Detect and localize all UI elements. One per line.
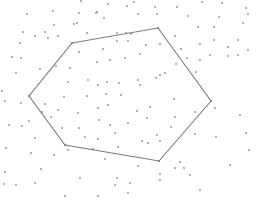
point bbox=[97, 107, 99, 109]
point bbox=[79, 177, 81, 179]
point bbox=[183, 167, 185, 169]
point bbox=[21, 125, 23, 127]
point bbox=[164, 72, 166, 74]
point bbox=[180, 48, 182, 50]
point bbox=[141, 140, 143, 142]
point bbox=[174, 116, 176, 118]
point bbox=[159, 140, 161, 142]
point bbox=[145, 44, 147, 46]
point bbox=[67, 81, 69, 83]
point bbox=[201, 1, 203, 3]
point bbox=[55, 65, 57, 67]
point bbox=[194, 111, 196, 113]
point bbox=[116, 40, 118, 42]
point bbox=[197, 26, 199, 28]
vertex bbox=[158, 160, 160, 162]
point bbox=[3, 183, 5, 185]
point bbox=[218, 16, 220, 18]
point bbox=[78, 51, 80, 53]
point bbox=[109, 59, 111, 61]
point bbox=[114, 132, 116, 134]
point bbox=[213, 26, 215, 28]
point bbox=[179, 161, 181, 163]
point bbox=[44, 103, 46, 105]
point bbox=[63, 96, 65, 98]
point bbox=[97, 138, 99, 140]
diagram-canvas bbox=[0, 0, 263, 215]
point bbox=[147, 142, 149, 144]
point bbox=[26, 13, 28, 15]
point bbox=[199, 189, 201, 191]
point bbox=[104, 158, 106, 160]
point bbox=[127, 192, 129, 194]
point bbox=[34, 35, 36, 37]
point bbox=[22, 31, 24, 33]
point bbox=[174, 35, 176, 37]
point bbox=[20, 102, 22, 104]
point bbox=[53, 154, 55, 156]
point bbox=[34, 182, 36, 184]
point bbox=[118, 82, 120, 84]
point bbox=[127, 40, 129, 42]
point bbox=[76, 22, 78, 24]
point bbox=[175, 63, 177, 65]
point bbox=[80, 0, 82, 2]
point bbox=[229, 164, 231, 166]
point bbox=[87, 79, 89, 81]
point bbox=[227, 46, 229, 48]
point bbox=[102, 48, 104, 50]
point bbox=[159, 74, 161, 76]
point bbox=[221, 2, 223, 4]
point bbox=[64, 195, 66, 197]
point bbox=[139, 53, 141, 55]
point bbox=[107, 104, 109, 106]
point bbox=[4, 100, 6, 102]
point bbox=[245, 7, 247, 9]
point bbox=[239, 114, 241, 116]
point bbox=[124, 57, 126, 59]
point bbox=[50, 116, 52, 118]
point bbox=[176, 6, 178, 8]
point bbox=[78, 12, 80, 14]
point bbox=[214, 107, 216, 109]
point bbox=[127, 122, 129, 124]
point bbox=[159, 173, 161, 175]
point bbox=[247, 13, 249, 15]
point bbox=[97, 84, 99, 86]
point bbox=[137, 165, 139, 167]
point bbox=[213, 39, 215, 41]
vertex bbox=[71, 42, 73, 44]
point bbox=[5, 147, 7, 149]
point bbox=[86, 32, 88, 34]
point bbox=[199, 43, 201, 45]
point bbox=[242, 22, 244, 24]
point bbox=[52, 10, 54, 12]
point bbox=[78, 127, 80, 129]
point bbox=[95, 12, 97, 14]
point bbox=[227, 55, 229, 57]
point bbox=[186, 57, 188, 59]
point bbox=[237, 54, 239, 56]
point bbox=[139, 84, 141, 86]
vertex bbox=[28, 95, 30, 97]
point bbox=[47, 37, 49, 39]
point bbox=[15, 72, 17, 74]
point bbox=[39, 68, 41, 70]
point bbox=[84, 136, 86, 138]
point bbox=[67, 149, 69, 151]
point bbox=[96, 61, 98, 63]
point bbox=[159, 43, 161, 45]
point bbox=[30, 152, 32, 154]
point bbox=[97, 195, 99, 197]
point bbox=[170, 126, 172, 128]
point bbox=[136, 110, 138, 112]
point bbox=[116, 177, 118, 179]
point bbox=[189, 174, 191, 176]
point bbox=[61, 127, 63, 129]
vertex bbox=[64, 144, 66, 146]
point bbox=[137, 13, 139, 15]
point bbox=[103, 17, 105, 19]
point bbox=[114, 184, 116, 186]
point bbox=[146, 117, 148, 119]
point bbox=[129, 182, 131, 184]
